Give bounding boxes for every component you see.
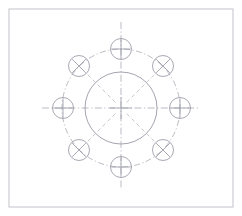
hole-north: [111, 39, 132, 60]
drawing-canvas: [0, 0, 242, 216]
hole-east: [170, 98, 191, 119]
hole-west: [53, 98, 74, 119]
hole-south: [111, 157, 132, 178]
technical-drawing-svg: [0, 0, 242, 216]
